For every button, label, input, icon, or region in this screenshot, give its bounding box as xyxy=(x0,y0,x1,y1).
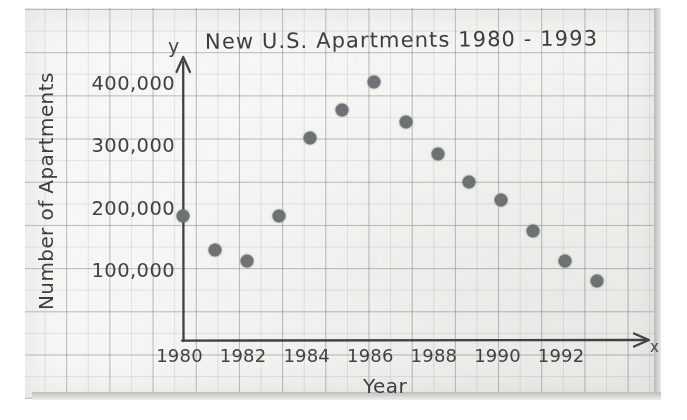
scatter-point xyxy=(399,116,412,129)
scatter-point xyxy=(177,209,190,222)
y-axis-letter: y xyxy=(168,35,180,57)
y-tick-label: 300,000 xyxy=(40,134,175,157)
y-tick-label: 100,000 xyxy=(40,259,175,282)
scatter-point xyxy=(209,244,222,257)
page-edge-bottom-shadow xyxy=(32,392,661,400)
scatter-point xyxy=(527,225,540,238)
scatter-point xyxy=(431,147,444,160)
scatter-point xyxy=(558,254,571,267)
scatter-point xyxy=(336,103,349,116)
scatter-point xyxy=(240,254,253,267)
y-tick-label: 200,000 xyxy=(40,197,175,220)
y-tick-label: 400,000 xyxy=(40,72,175,95)
scatter-point xyxy=(495,194,508,207)
scatter-point xyxy=(590,275,603,288)
x-tick-label: 1992 xyxy=(538,345,585,366)
x-tick-label: 1988 xyxy=(411,345,458,366)
scatter-point xyxy=(463,175,476,188)
x-tick-label: 1982 xyxy=(220,345,267,366)
x-axis-title: Year xyxy=(363,374,407,398)
screenshot-canvas: New U.S. Apartments 1980 - 1993 y x Numb… xyxy=(0,0,687,420)
chart-title: New U.S. Apartments 1980 - 1993 xyxy=(205,26,598,53)
x-axis-letter: x xyxy=(650,338,659,356)
x-tick-label: 1990 xyxy=(474,345,521,366)
x-tick-label: 1986 xyxy=(347,345,394,366)
scatter-point xyxy=(272,209,285,222)
x-tick-label: 1980 xyxy=(156,345,203,366)
x-tick-label: 1984 xyxy=(283,345,330,366)
scatter-point xyxy=(368,75,381,88)
scatter-point xyxy=(304,131,317,144)
